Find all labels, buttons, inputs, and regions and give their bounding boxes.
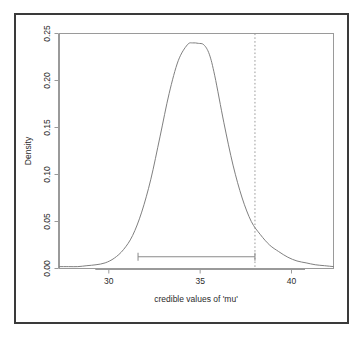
y-tick-label: 0.15 [42, 119, 52, 136]
y-axis-label: Density [23, 136, 33, 165]
y-tick-label: 0.05 [42, 213, 52, 230]
y-tick-label: 0.10 [42, 166, 52, 183]
credible-interval-bar [138, 253, 255, 261]
x-tick-label: 35 [195, 276, 205, 286]
x-axis: 303540 [95, 270, 305, 287]
x-axis-label: credible values of 'mu' [154, 294, 238, 304]
plot-box [60, 34, 334, 269]
y-tick-label: 0.20 [42, 72, 52, 89]
x-tick-label: 40 [287, 276, 297, 286]
y-tick-label: 0.25 [42, 25, 52, 42]
density-plot-svg: 0.000.050.100.150.200.25 303540 credible… [0, 0, 364, 338]
x-tick-label: 30 [104, 276, 114, 286]
density-curve [60, 43, 334, 267]
density-plot: 0.000.050.100.150.200.25 303540 credible… [0, 0, 364, 338]
y-axis: 0.000.050.100.150.200.25 [42, 25, 59, 277]
y-tick-label: 0.00 [42, 260, 52, 277]
